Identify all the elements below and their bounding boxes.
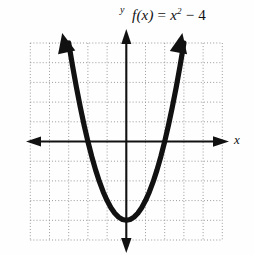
function-equation-label: f(x) = x2 − 4 bbox=[132, 6, 206, 24]
x-axis-arrow-left bbox=[26, 136, 41, 146]
parabola-arrow-right bbox=[170, 33, 187, 54]
x-axis-arrow-right bbox=[213, 136, 229, 147]
graph-canvas bbox=[0, 0, 254, 255]
parabola-figure: f(x) = x2 − 4 x y bbox=[0, 0, 254, 255]
x-axis bbox=[26, 136, 229, 147]
function-argument: (x) bbox=[136, 7, 153, 23]
equals-sign: = bbox=[154, 7, 171, 23]
parabola-curve bbox=[58, 33, 187, 220]
y-axis-label: y bbox=[120, 4, 124, 15]
parabola-arrow-left bbox=[58, 33, 75, 54]
y-axis-arrow-up bbox=[121, 29, 131, 44]
x-axis-label: x bbox=[234, 132, 240, 148]
y-axis-arrow-down bbox=[121, 238, 131, 253]
constant-term: − 4 bbox=[182, 7, 206, 23]
